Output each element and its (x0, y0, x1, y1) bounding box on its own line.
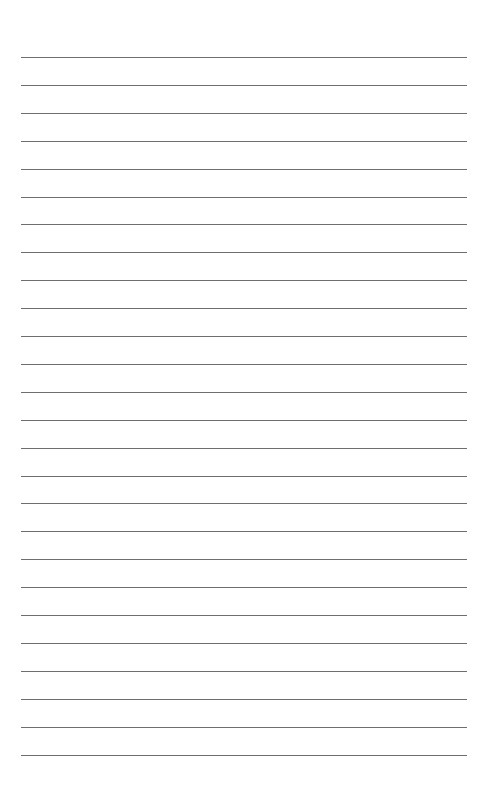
ruled-line (21, 671, 467, 672)
ruled-line (21, 643, 467, 644)
ruled-line (21, 197, 467, 198)
ruled-line (21, 113, 467, 114)
ruled-line (21, 364, 467, 365)
ruled-line (21, 252, 467, 253)
ruled-line (21, 531, 467, 532)
ruled-line (21, 392, 467, 393)
ruled-line (21, 755, 467, 756)
ruled-line (21, 587, 467, 588)
ruled-line (21, 476, 467, 477)
ruled-line (21, 224, 467, 225)
ruled-line (21, 336, 467, 337)
ruled-line (21, 169, 467, 170)
ruled-line (21, 420, 467, 421)
ruled-line (21, 280, 467, 281)
lined-paper-page (0, 0, 486, 789)
ruled-line (21, 448, 467, 449)
ruled-line (21, 559, 467, 560)
ruled-line (21, 308, 467, 309)
ruled-line (21, 615, 467, 616)
ruled-line (21, 503, 467, 504)
ruled-line (21, 57, 467, 58)
ruled-line (21, 727, 467, 728)
ruled-line (21, 85, 467, 86)
ruled-line (21, 141, 467, 142)
ruled-line (21, 699, 467, 700)
